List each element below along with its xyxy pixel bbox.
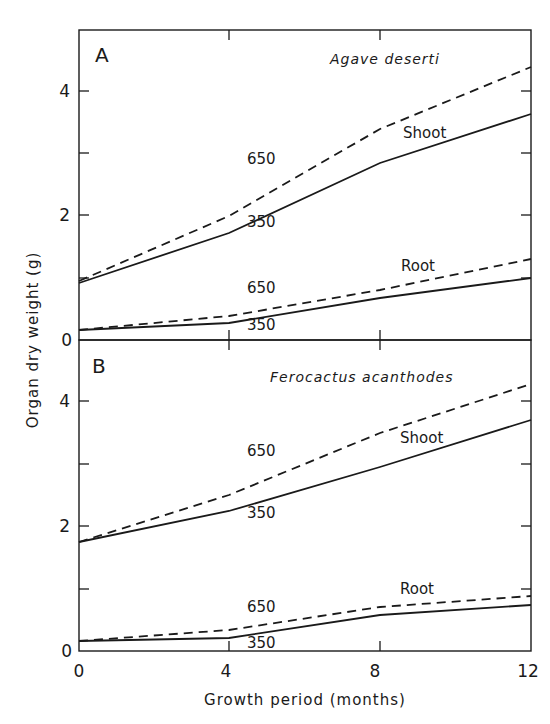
y-axis-title: Organ dry weight (g) <box>24 252 42 429</box>
panel-a-shoot-650-line <box>79 67 531 281</box>
panel-a: 4 2 0 A Agave deserti 650 350 Shoot Root… <box>59 30 531 350</box>
panel-a-letter: A <box>95 43 109 67</box>
x-axis-title: Growth period (months) <box>204 691 406 709</box>
figure: 4 2 0 A Agave deserti 650 350 Shoot Root… <box>0 0 550 724</box>
panel-b-ticks <box>79 340 531 651</box>
panel-b-root-label: Root <box>400 580 434 598</box>
panel-a-ytick-2: 2 <box>59 205 70 225</box>
panel-a-shoot-350-line <box>79 114 531 283</box>
panel-a-ytick-0: 0 <box>61 330 72 350</box>
panel-b-shoot-350-label: 350 <box>247 504 276 522</box>
panel-b-ytick-0: 0 <box>61 641 72 661</box>
panel-b-shoot-label: Shoot <box>400 429 443 447</box>
panel-a-root-350-line <box>79 278 531 330</box>
panel-a-ticks <box>79 30 531 340</box>
panel-b: 4 2 0 B Ferocactus acanthodes 650 350 Sh… <box>59 340 531 661</box>
panel-a-ytick-4: 4 <box>59 81 70 101</box>
panel-b-shoot-650-label: 650 <box>247 442 276 460</box>
panel-b-root-350-label: 350 <box>247 634 276 652</box>
panel-a-root-350-label: 350 <box>247 316 276 334</box>
panel-a-species: Agave deserti <box>329 51 440 67</box>
panel-a-shoot-350-label: 350 <box>247 213 276 231</box>
panel-b-shoot-650-line <box>79 384 531 542</box>
panel-b-root-650-label: 650 <box>247 598 276 616</box>
panel-b-root-650-line <box>79 596 531 641</box>
panel-b-letter: B <box>92 354 106 378</box>
xtick-12: 12 <box>517 661 539 681</box>
panel-a-frame <box>79 30 531 340</box>
panel-a-shoot-650-label: 650 <box>247 150 276 168</box>
panel-b-shoot-350-line <box>79 420 531 542</box>
panel-b-ytick-4: 4 <box>59 391 70 411</box>
xtick-8: 8 <box>370 661 381 681</box>
panel-b-ytick-2: 2 <box>59 516 70 536</box>
xtick-4: 4 <box>221 661 232 681</box>
panel-a-shoot-label: Shoot <box>403 124 446 142</box>
panel-b-frame <box>79 340 531 651</box>
panel-a-root-650-line <box>79 259 531 330</box>
panel-a-root-650-label: 650 <box>247 279 276 297</box>
panel-a-root-label: Root <box>401 257 435 275</box>
xtick-0: 0 <box>74 661 85 681</box>
panel-b-species: Ferocactus acanthodes <box>270 369 454 385</box>
